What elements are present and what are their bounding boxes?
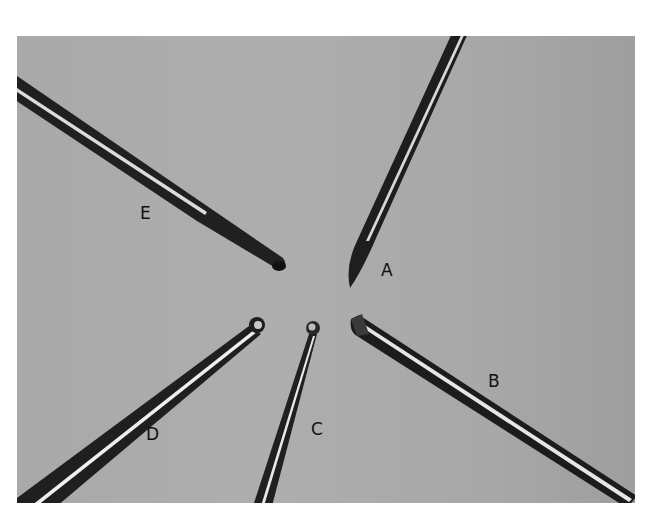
label-d: D — [146, 426, 159, 443]
label-e: E — [140, 205, 151, 222]
label-c: C — [311, 421, 323, 438]
instrument-photo: A B C D E — [17, 36, 635, 503]
label-b: B — [488, 373, 500, 390]
instrument-d — [17, 317, 265, 503]
instrument-c — [253, 321, 320, 503]
instrument-e — [17, 76, 286, 271]
instruments-drawing — [17, 36, 635, 503]
instrument-b — [351, 314, 635, 503]
label-a: A — [381, 262, 393, 279]
instrument-a — [349, 36, 469, 288]
